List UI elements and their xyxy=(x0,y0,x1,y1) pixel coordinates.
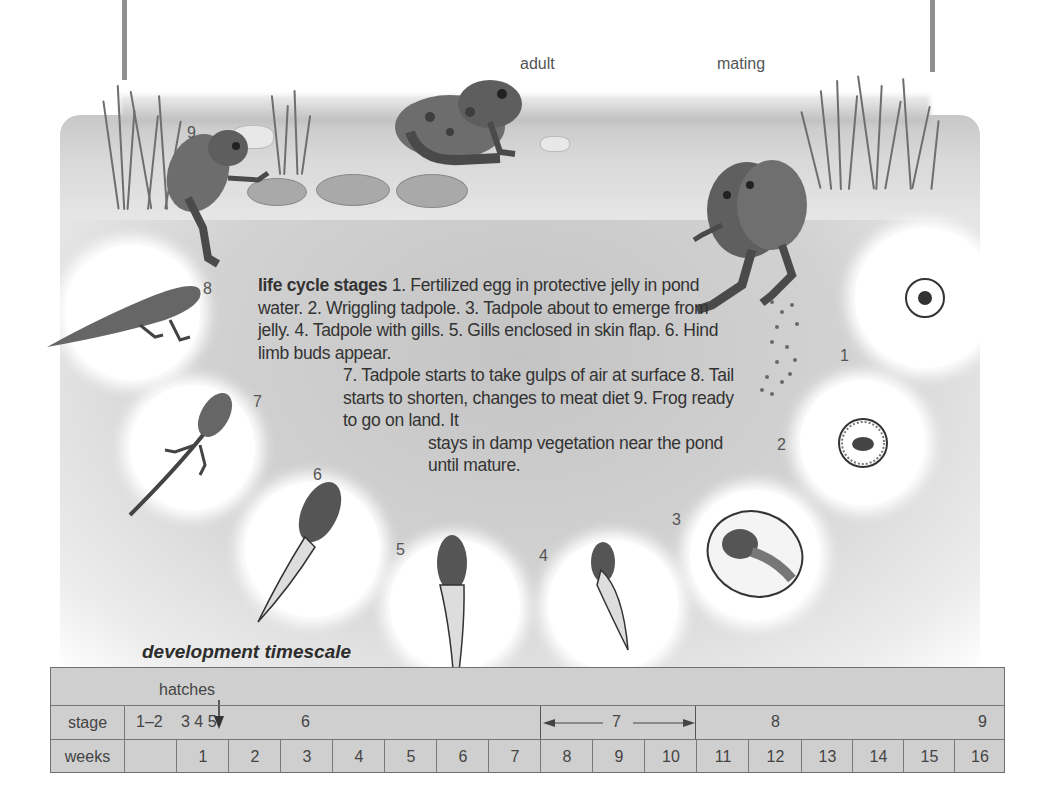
week-cell: 14 xyxy=(852,740,904,773)
rock xyxy=(540,136,570,152)
emerging-tadpole-egg-icon xyxy=(700,504,810,604)
timescale-table: hatches stage 1–2 3 4 5 6 7 8 9 weeks 1 … xyxy=(50,667,1005,773)
stage-9: 9 xyxy=(978,713,987,731)
tadpole-with-gills-icon xyxy=(583,540,643,660)
stage-row-header: stage xyxy=(51,706,124,740)
stage-1-circle xyxy=(855,228,995,368)
week-cell: 12 xyxy=(748,740,802,773)
description-text-2: 7. Tadpole starts to take gulps of air a… xyxy=(258,364,738,432)
adult-frog-illustration xyxy=(390,72,530,167)
tadpole-hind-limb-buds-icon xyxy=(250,477,360,627)
life-cycle-description: life cycle stages 1. Fertilized egg in p… xyxy=(258,274,738,477)
week-cell: 6 xyxy=(436,740,489,773)
stage-6: 6 xyxy=(301,713,310,731)
week-cell: 15 xyxy=(903,740,955,773)
stage-row: stage 1–2 3 4 5 6 7 8 9 xyxy=(51,705,1004,740)
hatches-label: hatches xyxy=(159,681,215,699)
stage-3-circle xyxy=(690,490,820,620)
week-cell: 4 xyxy=(332,740,385,773)
frame-line-top-left xyxy=(122,0,127,80)
stage-5-circle xyxy=(390,540,520,670)
stage-marker-3: 3 xyxy=(672,511,681,529)
tadpole-with-legs-icon xyxy=(125,390,245,520)
weeks-row-header: weeks xyxy=(51,740,124,773)
week-cell: 16 xyxy=(954,740,1005,773)
stage-8-circle xyxy=(65,245,200,380)
life-cycle-heading: life cycle stages xyxy=(258,275,387,295)
week-cell: 10 xyxy=(644,740,697,773)
week-cell: 5 xyxy=(384,740,437,773)
young-frog-illustration xyxy=(148,128,273,268)
stage-6-circle xyxy=(245,482,380,617)
weeks-row: weeks 1 2 3 4 5 6 7 8 9 10 11 12 13 14 1… xyxy=(51,739,1004,773)
stage-3-4-5: 3 4 5 xyxy=(181,713,217,731)
stage-marker-5: 5 xyxy=(396,541,405,559)
wriggling-tadpole-egg-icon xyxy=(836,416,890,470)
week-cell xyxy=(124,740,177,773)
week-cell: 8 xyxy=(540,740,593,773)
week-cell: 2 xyxy=(228,740,281,773)
stage-7: 7 xyxy=(612,713,621,731)
lily-pad xyxy=(316,174,390,206)
stage-marker-8: 8 xyxy=(203,280,212,298)
lily-pad xyxy=(396,174,468,208)
week-cell: 9 xyxy=(592,740,645,773)
stage-2-circle xyxy=(800,380,925,505)
week-cell: 1 xyxy=(176,740,229,773)
stage-7-circle xyxy=(130,385,255,510)
frame-line-top-right xyxy=(930,0,935,72)
mating-label: mating xyxy=(717,55,765,73)
week-cell: 13 xyxy=(801,740,853,773)
stage-marker-9: 9 xyxy=(187,124,196,142)
week-cell: 11 xyxy=(696,740,749,773)
week-cell: 7 xyxy=(488,740,541,773)
stage-marker-4: 4 xyxy=(539,547,548,565)
timescale-title: development timescale xyxy=(142,641,351,663)
stage-8: 8 xyxy=(771,713,780,731)
adult-label: adult xyxy=(520,55,555,73)
stage-4-circle xyxy=(548,540,678,670)
stage-marker-1: 1 xyxy=(840,347,849,365)
froglet-with-tail-icon xyxy=(45,265,215,355)
fertilized-egg-icon xyxy=(903,276,947,320)
week-cell: 3 xyxy=(280,740,333,773)
stage-7-span: 7 xyxy=(540,706,696,740)
description-text-3: stays in damp vegetation near the pond u… xyxy=(258,432,738,477)
stage-1-2: 1–2 xyxy=(136,713,163,731)
stage-marker-2: 2 xyxy=(777,436,786,454)
